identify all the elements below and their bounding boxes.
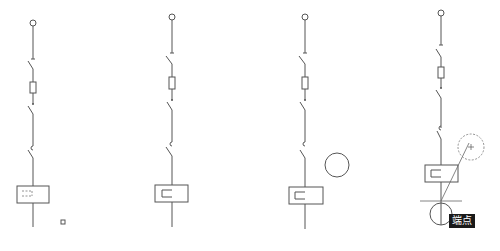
panel-2 (155, 14, 188, 227)
isolator-switch-blade (436, 49, 441, 57)
fuse-icon (438, 67, 444, 78)
thermal-element-dashed (22, 191, 32, 196)
thermal-relay-box (17, 186, 49, 203)
isolator-switch-blade (166, 56, 172, 64)
thermal-element-hook (162, 190, 172, 197)
thermal-relay-box (155, 185, 188, 202)
terminal-icon (30, 20, 36, 26)
fuse-icon (30, 82, 36, 93)
fuse-icon (302, 77, 308, 89)
isolator-switch-blade (28, 61, 33, 69)
breaker-blade (28, 106, 33, 114)
contactor-hook-icon (170, 142, 172, 146)
thermal-relay-box (425, 165, 458, 182)
breaker-blade (300, 102, 305, 110)
terminal-icon (169, 14, 175, 20)
isolator-switch-blade (299, 56, 305, 64)
pickbox-cursor-icon (61, 220, 65, 224)
caption-strip-cropped (0, 246, 500, 251)
circuit-diagram-canvas (0, 0, 500, 251)
thermal-element-hook (295, 192, 305, 199)
plus-marker-icon (468, 144, 474, 150)
panel-1 (17, 20, 65, 227)
fuse-icon (169, 77, 175, 89)
thermal-element-hook (431, 170, 441, 177)
contactor-hook-icon (303, 142, 305, 146)
thermal-relay-box (289, 187, 323, 204)
drawn-circle (325, 153, 349, 177)
snap-tooltip: 端点 (449, 214, 475, 228)
move-rubberband-line (441, 143, 469, 201)
panel-3 (289, 14, 349, 229)
terminal-icon (438, 10, 444, 16)
breaker-blade (436, 90, 441, 98)
breaker-blade (167, 102, 172, 110)
panel-4 (420, 10, 484, 225)
contactor-hook-icon (31, 146, 33, 150)
terminal-icon (302, 14, 308, 20)
